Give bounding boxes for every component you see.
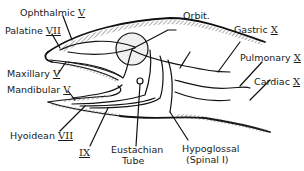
label-ophthalmic: Ophthalmic V [20, 7, 86, 18]
label-cardiac: Cardiac X [254, 76, 301, 87]
label-pulmonary: Pulmonary X [240, 52, 302, 63]
label-eustachian-2: Tube [121, 155, 144, 166]
label-hypoglossal-1: Hypoglossal [182, 143, 239, 154]
label-mandibular: Mandibular V [7, 84, 71, 95]
label-orbit: Orbit. [183, 10, 210, 21]
label-maxillary: Maxillary V [7, 68, 61, 79]
label-glossopharyngeal: IX [79, 147, 91, 158]
label-palatine: Palatine VII [5, 25, 61, 36]
label-eustachian-1: Eustachian [111, 144, 163, 155]
cranial-nerve-diagram: Ophthalmic V Palatine VII Maxillary V Ma… [0, 0, 304, 171]
eustachian-opening [137, 78, 143, 84]
label-hyoidean: Hyoidean VII [10, 130, 73, 141]
label-hypoglossal-2: (Spinal I) [186, 154, 228, 165]
label-gastric: Gastric X [234, 24, 279, 35]
labels: Ophthalmic V Palatine VII Maxillary V Ma… [5, 7, 302, 166]
